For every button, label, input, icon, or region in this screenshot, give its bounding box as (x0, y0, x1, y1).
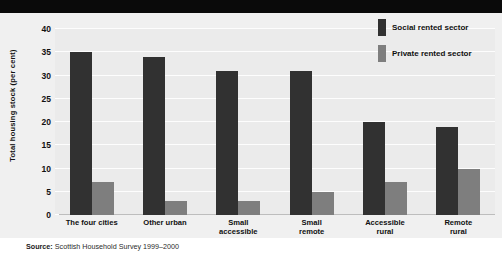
source-note: Source: Scottish Household Survey 1999–2… (26, 242, 179, 251)
legend-swatch-private-icon (378, 45, 386, 62)
y-tick-label: 30 (11, 72, 51, 80)
legend-label-social: Social rented sector (392, 23, 468, 32)
chart-area: Total housing stock (per cent) Social re… (0, 13, 502, 238)
bar-private-rented[interactable] (458, 169, 480, 216)
source-text: Scottish Household Survey 1999–2000 (55, 242, 179, 251)
bar-social-rented[interactable] (290, 71, 312, 215)
y-tick-mark (55, 214, 59, 215)
bar-group (143, 29, 187, 215)
gridline (55, 98, 495, 99)
legend-label-private: Private rented sector (392, 49, 472, 58)
y-tick-mark (55, 28, 59, 29)
y-tick-label: 10 (11, 165, 51, 173)
legend-item-social[interactable]: Social rented sector (378, 19, 472, 36)
y-tick-mark (55, 168, 59, 169)
bar-private-rented[interactable] (92, 182, 114, 215)
x-tick-label: Smallaccessible (202, 218, 275, 236)
legend-item-private[interactable]: Private rented sector (378, 45, 472, 62)
chart-figure: Total housing stock (per cent) Social re… (0, 0, 502, 257)
y-tick-mark (55, 98, 59, 99)
y-tick-label: 25 (11, 95, 51, 103)
bar-private-rented[interactable] (165, 201, 187, 215)
bar-private-rented[interactable] (385, 182, 407, 215)
source-prefix: Source: (26, 242, 53, 251)
bar-social-rented[interactable] (143, 57, 165, 215)
bar-social-rented[interactable] (216, 71, 238, 215)
y-tick-label: 35 (11, 48, 51, 56)
y-tick-mark (55, 51, 59, 52)
x-tick-label: Accessiblerural (348, 218, 421, 236)
x-axis-line (55, 214, 495, 215)
x-tick-label: Remoterural (422, 218, 495, 236)
gridline (55, 121, 495, 122)
bar-group (70, 29, 114, 215)
bar-group (290, 29, 334, 215)
y-tick-mark (55, 191, 59, 192)
y-tick-label: 40 (11, 25, 51, 33)
y-tick-mark (55, 121, 59, 122)
x-tick-label: Smallremote (275, 218, 348, 236)
y-tick-mark (55, 144, 59, 145)
bar-social-rented[interactable] (70, 52, 92, 215)
gridline (55, 191, 495, 192)
gridline (55, 168, 495, 169)
chart-legend: Social rented sector Private rented sect… (378, 19, 472, 71)
y-tick-label: 20 (11, 118, 51, 126)
bar-social-rented[interactable] (363, 122, 385, 215)
y-tick-mark (55, 75, 59, 76)
y-tick-label: 5 (11, 188, 51, 196)
x-tick-label: The four cities (55, 218, 128, 227)
legend-swatch-social-icon (378, 19, 386, 36)
bar-social-rented[interactable] (436, 127, 458, 215)
bar-private-rented[interactable] (238, 201, 260, 215)
gridline (55, 144, 495, 145)
y-tick-label: 15 (11, 141, 51, 149)
gridline (55, 75, 495, 76)
x-tick-label: Other urban (128, 218, 201, 227)
y-tick-label: 0 (11, 211, 51, 219)
bar-group (216, 29, 260, 215)
title-band (0, 0, 502, 13)
bar-private-rented[interactable] (312, 192, 334, 215)
